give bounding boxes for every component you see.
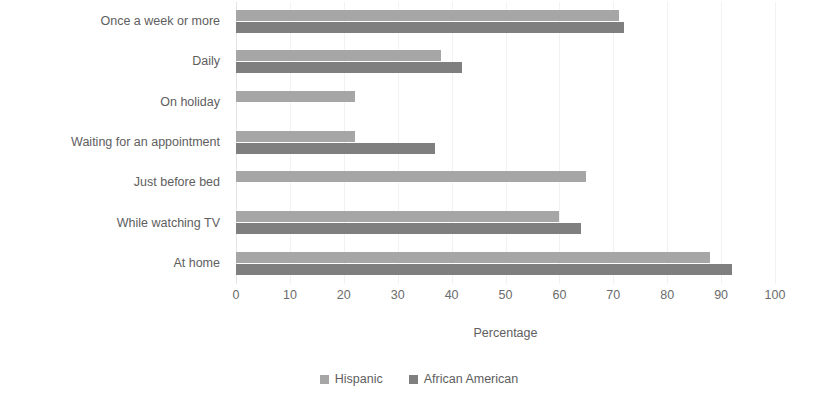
bar-african-american [236, 62, 462, 73]
category-label: Waiting for an appointment [0, 135, 220, 149]
chart-legend: HispanicAfrican American [0, 372, 838, 386]
legend-item[interactable]: Hispanic [320, 372, 383, 386]
axis-tick-label: 90 [714, 288, 728, 302]
value-axis-ticks: 0102030405060708090100 [236, 288, 775, 308]
category-label: While watching TV [0, 216, 220, 230]
axis-tick-label: 50 [499, 288, 513, 302]
category-label: Daily [0, 54, 220, 68]
category-axis-labels: Once a week or moreDailyOn holidayWaitin… [0, 2, 228, 284]
legend-label: Hispanic [335, 372, 383, 386]
bar-hispanic [236, 211, 559, 222]
bar-african-american [236, 22, 624, 33]
category-label: Once a week or more [0, 14, 220, 28]
bar-group [236, 42, 775, 82]
legend-label: African American [424, 372, 518, 386]
axis-tick-label: 60 [552, 288, 566, 302]
category-label: On holiday [0, 95, 220, 109]
bar-african-american [236, 143, 435, 154]
bar-group [236, 2, 775, 42]
bar-hispanic [236, 50, 441, 61]
axis-tick-label: 30 [391, 288, 405, 302]
bar-african-american [236, 223, 581, 234]
bar-hispanic [236, 131, 355, 142]
bar-hispanic [236, 91, 355, 102]
gridline [775, 2, 776, 284]
bar-group [236, 244, 775, 284]
bar-african-american [236, 264, 732, 275]
axis-tick-label: 70 [606, 288, 620, 302]
bar-chart: Once a week or moreDailyOn holidayWaitin… [0, 0, 838, 410]
bar-hispanic [236, 252, 710, 263]
axis-tick-label: 20 [337, 288, 351, 302]
square-swatch-icon [320, 375, 329, 384]
bar-group [236, 203, 775, 243]
axis-tick-label: 10 [283, 288, 297, 302]
bar-group [236, 163, 775, 203]
plot-area [236, 2, 775, 284]
axis-tick-label: 80 [660, 288, 674, 302]
category-label: At home [0, 256, 220, 270]
bar-groups [236, 2, 775, 284]
category-label: Just before bed [0, 175, 220, 189]
axis-tick-label: 100 [765, 288, 786, 302]
bar-hispanic [236, 171, 586, 182]
axis-tick-label: 0 [233, 288, 240, 302]
bar-group [236, 123, 775, 163]
bar-hispanic [236, 10, 619, 21]
square-swatch-icon [409, 375, 418, 384]
bar-group [236, 83, 775, 123]
axis-tick-label: 40 [445, 288, 459, 302]
value-axis-title: Percentage [236, 326, 775, 340]
legend-item[interactable]: African American [409, 372, 518, 386]
